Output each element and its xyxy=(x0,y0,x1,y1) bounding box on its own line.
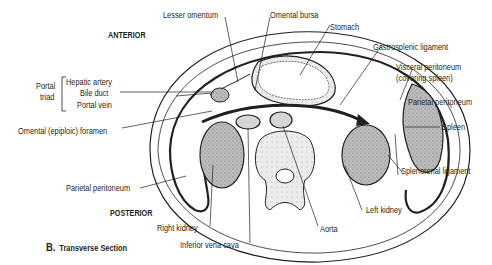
label-visceral-peritoneum: Visceral peritoneum xyxy=(396,62,461,72)
label-portal-triad-line1: Portal xyxy=(36,81,55,91)
figure-caption: B. Transverse Section xyxy=(46,237,127,255)
vertebra xyxy=(255,131,314,210)
label-parietal-peritoneum-right: Parietal peritoneum xyxy=(408,97,472,107)
label-gastrosplenic-ligament: Gastrosplenic ligament xyxy=(373,42,448,52)
inferior-vena-cava xyxy=(236,115,260,129)
label-bile-duct: Bile duct xyxy=(80,88,108,98)
label-spleen: Spleen xyxy=(442,122,465,132)
label-hepatic-artery: Hepatic artery xyxy=(66,77,112,87)
label-stomach: Stomach xyxy=(330,22,359,32)
label-aorta: Aorta xyxy=(320,224,338,234)
label-lesser-omentum: Lesser omentum xyxy=(163,10,218,20)
label-splenorenal-ligament: Splenorenal ligament xyxy=(401,166,470,176)
stomach xyxy=(252,56,335,106)
label-parietal-peritoneum-left: Parietal peritoneum xyxy=(66,183,130,193)
label-left-kidney: Left kidney xyxy=(366,205,402,215)
label-omental-foramen: Omental (epiploic) foramen xyxy=(18,126,107,136)
label-right-kidney: Right kidney xyxy=(157,223,198,233)
caption-text: Transverse Section xyxy=(59,243,127,253)
label-portal-vein: Portal vein xyxy=(77,100,112,110)
right-kidney xyxy=(200,122,244,188)
label-portal-triad-line2: triad xyxy=(40,92,54,102)
label-inferior-vena-cava: Inferior vena cava xyxy=(180,240,239,250)
transverse-section-diagram: ANTERIOR POSTERIOR Lesser omentum Omenta… xyxy=(0,0,492,265)
posterior-label: POSTERIOR xyxy=(110,208,152,218)
aorta xyxy=(270,112,292,128)
anterior-label: ANTERIOR xyxy=(108,30,146,40)
label-omental-bursa: Omental bursa xyxy=(270,10,318,20)
caption-letter: B. xyxy=(46,241,55,253)
label-visceral-peritoneum-sub: (covering spleen) xyxy=(396,73,453,83)
